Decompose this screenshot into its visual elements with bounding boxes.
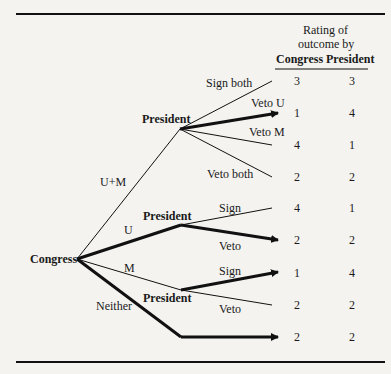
column-header-president: President bbox=[326, 53, 374, 65]
outcome-4-president: 2 bbox=[345, 171, 359, 183]
node-president-1: President bbox=[142, 113, 190, 125]
outcome-5-congress: 4 bbox=[290, 202, 304, 214]
outcome-8-congress: 2 bbox=[290, 299, 304, 311]
outcome-7-president: 4 bbox=[345, 267, 359, 279]
move-label-u: U bbox=[124, 224, 133, 236]
header-line2: outcome by bbox=[298, 38, 354, 50]
outcome-6-president: 2 bbox=[345, 234, 359, 246]
column-header-congress: Congress bbox=[276, 53, 323, 65]
outcome-4-congress: 2 bbox=[290, 171, 304, 183]
move-label-um: U+M bbox=[100, 176, 126, 188]
outcome-9-congress: 2 bbox=[290, 331, 304, 343]
outcome-8-president: 2 bbox=[345, 299, 359, 311]
move-label-p3-veto: Veto bbox=[219, 303, 241, 315]
outcome-5-president: 1 bbox=[345, 202, 359, 214]
move-label-p2-sign: Sign bbox=[219, 202, 241, 214]
move-label-sign-both: Sign both bbox=[206, 77, 252, 89]
header-line1: Rating of bbox=[303, 24, 348, 36]
move-label-veto-m: Veto M bbox=[249, 126, 285, 138]
outcome-7-congress: 1 bbox=[290, 267, 304, 279]
outcome-1-president: 3 bbox=[345, 75, 359, 87]
outcome-2-president: 4 bbox=[345, 107, 359, 119]
move-label-veto-u: Veto U bbox=[251, 97, 285, 109]
outcome-6-congress: 2 bbox=[290, 234, 304, 246]
move-label-p3-sign: Sign bbox=[219, 265, 241, 277]
move-label-neither: Neither bbox=[96, 300, 132, 312]
outcome-2-congress: 1 bbox=[290, 107, 304, 119]
move-label-p2-veto: Veto bbox=[219, 240, 241, 252]
node-president-2: President bbox=[143, 210, 191, 222]
move-label-veto-both: Veto both bbox=[207, 168, 253, 180]
node-president-3: President bbox=[143, 292, 191, 304]
move-label-m: M bbox=[124, 262, 135, 274]
outcome-3-president: 1 bbox=[345, 139, 359, 151]
outcome-1-congress: 3 bbox=[290, 75, 304, 87]
outcome-9-president: 2 bbox=[345, 331, 359, 343]
outcome-3-congress: 4 bbox=[290, 139, 304, 151]
node-congress: Congress bbox=[30, 253, 77, 265]
